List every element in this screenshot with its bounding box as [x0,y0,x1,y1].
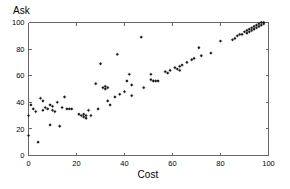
data-point [89,114,93,118]
data-point [113,95,117,99]
data-point [56,101,60,105]
data-point [94,82,98,86]
y-tick-label: 20 [16,125,24,134]
data-point [240,33,244,37]
x-tick-label: 60 [168,159,176,168]
data-point [185,61,189,65]
data-point [130,94,134,98]
scatter-plot-figure: Ask 020406080100020406080100 Cost [0,0,290,189]
x-tick-label: 0 [26,159,30,168]
data-point [116,53,120,57]
data-point [27,134,31,138]
data-point [41,99,45,103]
axes [29,23,269,156]
data-point [87,108,91,112]
x-tick-label: 100 [262,159,275,168]
y-tick-label: 100 [12,18,25,27]
data-point [36,140,40,144]
x-tick-label: 20 [72,159,80,168]
data-point [197,46,201,50]
data-point [149,73,153,77]
data-point [34,110,38,114]
y-tick-label: 80 [16,45,24,54]
data-point [41,108,45,112]
data-point [32,107,36,111]
data-points [27,21,266,144]
x-axis-title: Cost [28,169,268,180]
data-point [108,103,112,107]
data-point [123,90,127,94]
data-point [128,73,132,77]
y-tick-label: 60 [16,71,24,80]
data-point [156,79,160,83]
data-point [48,123,52,127]
tick-marks [29,23,269,156]
data-point [168,69,172,73]
data-point [209,51,213,55]
data-point [140,35,144,39]
data-point [106,99,110,103]
data-point [219,39,223,43]
data-point [29,103,33,107]
data-point [70,107,74,111]
data-point [142,86,146,90]
data-point [27,114,31,118]
plot-canvas: 020406080100020406080100 [0,0,290,189]
x-tick-label: 80 [216,159,224,168]
data-point [200,54,204,58]
data-point [96,107,100,111]
x-tick-label: 40 [120,159,128,168]
data-point [99,62,103,66]
data-point [125,79,129,83]
data-point [39,97,43,101]
tick-labels: 020406080100020406080100 [12,18,275,167]
y-tick-label: 0 [20,151,24,160]
data-point [118,93,122,97]
data-point [60,106,64,110]
data-point [58,124,62,128]
y-tick-label: 40 [16,98,24,107]
data-point [63,95,67,99]
data-point [130,83,134,87]
